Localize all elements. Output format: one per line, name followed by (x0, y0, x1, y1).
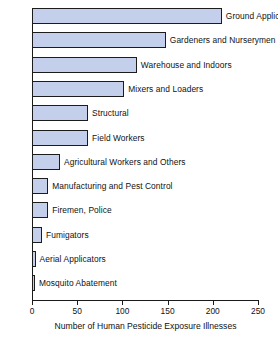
x-axis-tick-label: 150 (161, 306, 175, 317)
x-axis-tick-label: 100 (115, 306, 129, 317)
x-axis-line (32, 300, 259, 301)
x-axis-tick (213, 300, 214, 305)
bar-category-label: Manufacturing and Pest Control (52, 179, 172, 193)
x-axis-tick-label: 0 (30, 306, 35, 317)
bar-category-label: Warehouse and Indoors (141, 58, 232, 72)
bar-category-label: Aerial Applicators (40, 252, 106, 266)
bar-chart: Ground ApplicatorsGardeners and Nurserym… (0, 0, 278, 343)
x-axis-tick (168, 300, 169, 305)
bar (32, 32, 166, 48)
bar-category-label: Agricultural Workers and Others (64, 155, 186, 169)
x-axis-tick-label: 250 (251, 306, 265, 317)
bar (32, 154, 60, 170)
bar-category-label: Gardeners and Nurserymen (170, 33, 276, 47)
bar (32, 105, 88, 121)
x-axis-tick (258, 300, 259, 305)
bar (32, 275, 35, 291)
bar-category-label: Firemen, Police (52, 203, 111, 217)
bar (32, 227, 42, 243)
x-axis-tick (77, 300, 78, 305)
bar-category-label: Fumigators (46, 228, 89, 242)
bar-category-label: Mosquito Abatement (39, 276, 117, 290)
bar-category-label: Mixers and Loaders (128, 82, 203, 96)
bar (32, 8, 222, 24)
bar (32, 81, 124, 97)
x-axis-tick (32, 300, 33, 305)
x-axis-tick-label: 50 (73, 306, 82, 317)
bar-category-label: Field Workers (92, 131, 145, 145)
bar-category-label: Ground Applicators (226, 9, 278, 23)
bar (32, 251, 36, 267)
x-axis-label: Number of Human Pesticide Exposure Illne… (32, 320, 259, 332)
bar (32, 57, 137, 73)
bar (32, 178, 48, 194)
bar (32, 202, 48, 218)
x-axis-tick (122, 300, 123, 305)
bar (32, 130, 88, 146)
bar-category-label: Structural (92, 106, 129, 120)
x-axis-tick-label: 200 (206, 306, 220, 317)
